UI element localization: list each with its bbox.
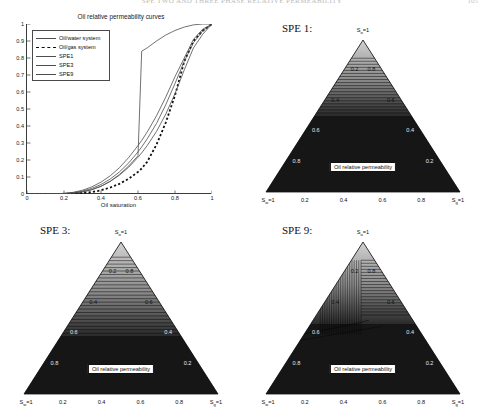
ternary-plot-spe3 <box>0 212 242 417</box>
colorbar-label: Oil relative permeability <box>88 364 154 374</box>
y-axis-tick-label: 0 <box>21 191 24 197</box>
panel-line-chart: Oil relative permeability curves 00.10.2… <box>0 10 242 215</box>
x-axis-tick-label: 0.8 <box>171 195 179 201</box>
y-axis-tick-label: 0.8 <box>16 55 24 61</box>
legend-swatch-line <box>36 34 56 41</box>
ternary-bottom-tick-label: 0.8 <box>417 399 425 405</box>
ternary-left-tick-label: 0.6 <box>312 127 320 133</box>
legend-item: SPE1 <box>36 51 106 60</box>
ternary-plot-spe1 <box>242 10 484 215</box>
ternary-right-tick-label: 0.6 <box>387 97 395 103</box>
panel-ternary-spe3: SPE 3: Oil relative permeability 0.20.40… <box>0 212 242 417</box>
legend-label: SPE1 <box>59 53 73 59</box>
y-axis-tick-label: 0.4 <box>16 123 24 129</box>
legend-swatch-line <box>36 70 56 77</box>
panel-ternary-spe9: SPE 9: Oil relative permeability 0.20.40… <box>242 212 484 417</box>
ternary-right-corner-label: Sg=1 <box>452 399 464 407</box>
legend-label: SPE3 <box>59 62 73 68</box>
ternary-apex-label: So=1 <box>357 27 369 35</box>
page-number: 105 <box>468 0 479 5</box>
ternary-right-tick-label: 0.8 <box>368 268 376 274</box>
ternary-left-tick-label: 0.2 <box>351 268 359 274</box>
legend-swatch-line <box>36 52 56 59</box>
x-axis-tick-label: 1 <box>210 195 213 201</box>
x-axis-tick-label: 0 <box>25 195 28 201</box>
ternary-right-tick-label: 0.4 <box>406 127 414 133</box>
y-axis-tick-label: 0.1 <box>16 174 24 180</box>
ternary-right-corner-label: Sg=1 <box>452 197 464 205</box>
panel-ternary-spe1: SPE 1: Oil relative permeability 0.20.40… <box>242 10 484 215</box>
legend-label: SPE9 <box>59 71 73 77</box>
x-axis-tick-label: 0.6 <box>134 195 142 201</box>
ternary-right-tick-label: 0.6 <box>387 299 395 305</box>
ternary-left-corner-label: Sw=1 <box>261 399 274 407</box>
ternary-bottom-tick-label: 0.4 <box>98 399 106 405</box>
y-axis-tick-label: 0.5 <box>16 106 24 112</box>
ternary-right-tick-label: 0.8 <box>368 66 376 72</box>
ternary-left-tick-label: 0.8 <box>293 158 301 164</box>
y-axis-tick-label: 1 <box>21 21 24 27</box>
ternary-bottom-tick-label: 0.8 <box>175 399 183 405</box>
ternary-left-tick-label: 0.4 <box>331 97 339 103</box>
ternary-bottom-tick-label: 0.8 <box>417 197 425 203</box>
ternary-left-tick-label: 0.4 <box>89 299 97 305</box>
ternary-left-tick-label: 0.6 <box>312 329 320 335</box>
ternary-left-corner-label: Sw=1 <box>261 197 274 205</box>
ternary-left-corner-label: Sw=1 <box>19 399 32 407</box>
ternary-plot-spe9 <box>242 212 484 417</box>
running-header: SPE TWO AND THREE PHASE RELATIVE PERMEAB… <box>0 0 484 9</box>
ternary-right-tick-label: 0.8 <box>126 268 134 274</box>
y-axis-tick-label: 0.6 <box>16 89 24 95</box>
ternary-right-tick-label: 0.2 <box>426 158 434 164</box>
ternary-apex-label: So=1 <box>115 229 127 237</box>
ternary-bottom-tick-label: 0.6 <box>379 197 387 203</box>
ternary-left-tick-label: 0.6 <box>70 329 78 335</box>
y-axis-tick-label: 0.3 <box>16 140 24 146</box>
ternary-bottom-tick-label: 0.4 <box>340 399 348 405</box>
legend-item: SPE3 <box>36 60 106 69</box>
legend-swatch-line <box>36 61 56 68</box>
line-chart-legend: Oil/water system Oil/gas system SPE1 SPE… <box>32 30 110 81</box>
ternary-right-tick-label: 0.2 <box>184 360 192 366</box>
ternary-right-tick-label: 0.2 <box>426 360 434 366</box>
ternary-left-tick-label: 0.2 <box>351 66 359 72</box>
ternary-bottom-tick-label: 0.2 <box>59 399 67 405</box>
legend-item: SPE9 <box>36 69 106 78</box>
x-axis-tick-label: 0.4 <box>97 195 105 201</box>
line-chart-title: Oil relative permeability curves <box>0 13 242 20</box>
legend-label: Oil/water system <box>59 35 100 41</box>
ternary-apex-label: So=1 <box>357 229 369 237</box>
ternary-left-tick-label: 0.4 <box>331 299 339 305</box>
ternary-right-tick-label: 0.4 <box>164 329 172 335</box>
y-axis-tick-label: 0.2 <box>16 157 24 163</box>
line-chart-xlabel: Oil saturation <box>26 202 211 208</box>
legend-label: Oil/gas system <box>59 44 96 50</box>
ternary-bottom-tick-label: 0.2 <box>301 197 309 203</box>
ternary-bottom-tick-label: 0.4 <box>340 197 348 203</box>
legend-item: Oil/water system <box>36 33 106 42</box>
ternary-right-tick-label: 0.4 <box>406 329 414 335</box>
legend-swatch-dashed-line <box>36 43 56 50</box>
ternary-left-tick-label: 0.8 <box>51 360 59 366</box>
ternary-left-tick-label: 0.8 <box>293 360 301 366</box>
figure-root: SPE TWO AND THREE PHASE RELATIVE PERMEAB… <box>0 0 484 419</box>
ternary-right-corner-label: Sg=1 <box>210 399 222 407</box>
legend-item: Oil/gas system <box>36 42 106 51</box>
ternary-bottom-tick-label: 0.6 <box>379 399 387 405</box>
ternary-right-tick-label: 0.6 <box>145 299 153 305</box>
y-axis-tick-label: 0.7 <box>16 72 24 78</box>
ternary-bottom-tick-label: 0.2 <box>301 399 309 405</box>
running-header-title: SPE TWO AND THREE PHASE RELATIVE PERMEAB… <box>142 0 343 5</box>
y-axis-tick-label: 0.9 <box>16 38 24 44</box>
colorbar-label: Oil relative permeability <box>330 162 396 172</box>
ternary-left-tick-label: 0.2 <box>109 268 117 274</box>
x-axis-tick-label: 0.2 <box>60 195 68 201</box>
colorbar-label: Oil relative permeability <box>330 364 396 374</box>
ternary-bottom-tick-label: 0.6 <box>137 399 145 405</box>
